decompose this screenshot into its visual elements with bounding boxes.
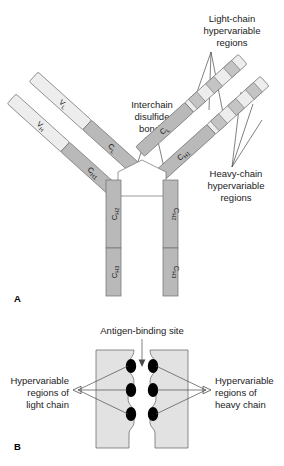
annotation-hypervariable-light: Hypervariable regions of light chain bbox=[10, 375, 69, 410]
stem-right-heavy-chain: CH2 CH3 bbox=[163, 180, 181, 296]
annotation-line: heavy chain bbox=[215, 399, 266, 410]
annotation-line: hypervariable bbox=[203, 25, 260, 36]
annotation-line: hypervariable bbox=[207, 180, 264, 191]
annotation-line: Hypervariable bbox=[215, 375, 274, 386]
annotation-line: regions of bbox=[215, 387, 257, 398]
panel-a: Light-chain hypervariable regions Interc… bbox=[7, 13, 269, 304]
annotation-line: disulfide bbox=[135, 111, 170, 122]
hypervariable-spot-light bbox=[126, 383, 136, 397]
annotation-line: Interchain bbox=[131, 99, 173, 110]
annotation-line: light chain bbox=[26, 399, 69, 410]
annotation-hypervariable-heavy: Hypervariable regions of heavy chain bbox=[215, 375, 274, 410]
stem-left-heavy-chain: CH2 CH3 bbox=[106, 180, 121, 296]
annotation-line: Heavy-chain bbox=[210, 168, 263, 179]
annotation-antigen-binding-site: Antigen-binding site bbox=[100, 325, 183, 336]
annotation-line: regions bbox=[216, 37, 247, 48]
annotation-line: regions of bbox=[27, 387, 69, 398]
label-ch3-right: CH3 bbox=[171, 266, 181, 279]
label-ch2-right: CH2 bbox=[171, 208, 181, 221]
antibody-figure: Light-chain hypervariable regions Interc… bbox=[0, 0, 284, 466]
panel-letter-a: A bbox=[14, 293, 21, 304]
annotation-line: regions bbox=[220, 192, 251, 203]
panel-letter-b: B bbox=[14, 441, 21, 452]
panel-b: Antigen-binding site bbox=[10, 325, 273, 452]
hypervariable-spot-heavy bbox=[148, 383, 158, 397]
figure-canvas: Light-chain hypervariable regions Interc… bbox=[0, 0, 284, 466]
antigen-arrow-head bbox=[139, 360, 146, 368]
annotation-line: Hypervariable bbox=[10, 375, 69, 386]
annotation-line: Light-chain bbox=[209, 13, 255, 24]
